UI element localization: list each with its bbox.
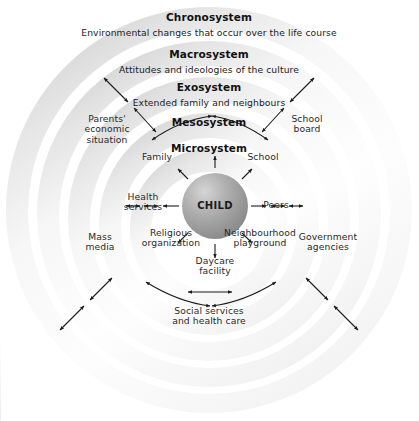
ring-title-mesosystem: Mesosystem — [129, 117, 289, 129]
node-health-services: Health services — [112, 192, 174, 213]
node-religious-organization: Religious organization — [130, 228, 212, 249]
node-social-services-health-care: Social services and health care — [144, 306, 274, 327]
ring-title-chronosystem: Chronosystem — [109, 12, 309, 24]
ring-title-exosystem: Exosystem — [119, 82, 299, 94]
node-family: Family — [122, 152, 192, 162]
node-school-board: School board — [276, 114, 338, 135]
child-label: CHILD — [185, 200, 245, 211]
node-parents-economic-situation: Parents' economic situation — [72, 114, 142, 145]
node-school: School — [228, 152, 298, 162]
node-mass-media: Mass media — [72, 232, 128, 253]
node-peers: Peers — [250, 200, 302, 210]
node-government-agencies: Government agencies — [288, 232, 368, 253]
node-daycare-facility: Daycare facility — [178, 256, 252, 277]
diagram-frame: Chronosystem Environmental changes that … — [0, 0, 419, 422]
ring-subtitle-exosystem: Extended family and neighbours — [89, 98, 329, 108]
ring-subtitle-macrosystem: Attitudes and ideologies of the culture — [69, 65, 349, 75]
ring-subtitle-chronosystem: Environmental changes that occur over th… — [59, 28, 359, 38]
ring-title-macrosystem: Macrosystem — [109, 49, 309, 61]
